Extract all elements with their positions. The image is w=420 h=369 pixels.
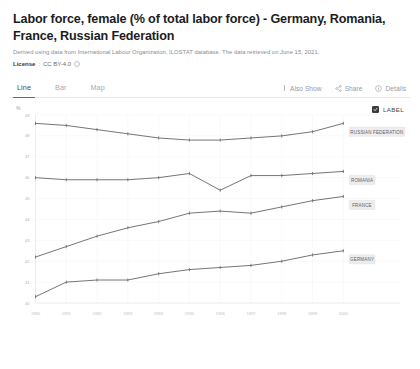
x-axis-tick: 1998 (277, 311, 287, 316)
x-axis-tick: 1999 (308, 311, 318, 316)
details-label: Details (385, 85, 406, 92)
y-axis-tick: 42 (25, 259, 30, 264)
tab-line[interactable]: Line (13, 83, 35, 97)
label-checkbox[interactable] (372, 106, 379, 113)
share-icon (335, 85, 342, 92)
y-axis-tick: 46 (25, 175, 30, 180)
chart-area: % LABEL 49484746454443424140199019911992… (10, 105, 410, 337)
series-label[interactable]: RUSSIAN FEDERATION (349, 127, 404, 136)
svg-text:ROMANIA: ROMANIA (351, 177, 374, 182)
x-axis-tick: 1993 (123, 311, 133, 316)
also-show-label: Also Show (290, 85, 322, 92)
y-axis-tick: 45 (25, 196, 30, 201)
x-axis-tick: 1996 (216, 311, 226, 316)
y-axis-tick: 47 (25, 154, 30, 159)
page-subtitle: Derived using data from International La… (10, 49, 410, 57)
y-axis-tick: 48 (25, 133, 30, 138)
bars-icon (282, 85, 287, 91)
share-button[interactable]: Share (335, 85, 363, 92)
tab-list: Line Bar Map (13, 83, 109, 97)
view-tabbar: Line Bar Map Also Show (10, 76, 410, 98)
chart-svg[interactable]: 4948474645444342414019901991199219931994… (10, 105, 410, 337)
license-row: License : CC BY-4.0 (10, 61, 410, 67)
license-separator: : (38, 61, 40, 67)
series-label[interactable]: ROMANIA (349, 175, 375, 184)
share-label: Share (345, 85, 363, 92)
x-axis-tick: 2000 (339, 311, 349, 316)
check-icon (373, 107, 378, 112)
y-axis-tick: 44 (25, 217, 30, 222)
chart-page: Labor force, female (% of total labor fo… (0, 0, 420, 369)
x-axis-tick: 1990 (31, 311, 41, 316)
series-label[interactable]: FRANCE (349, 200, 374, 209)
page-title: Labor force, female (% of total labor fo… (10, 10, 410, 44)
tab-bar[interactable]: Bar (51, 83, 71, 97)
label-toggle[interactable]: LABEL (372, 106, 404, 113)
details-button[interactable]: Details (375, 85, 406, 92)
chart-toolbar: Also Show Share (282, 85, 406, 97)
line-chart-plot: 4948474645444342414019901991199219931994… (10, 105, 410, 337)
x-axis-tick: 1992 (92, 311, 102, 316)
info-circle-icon[interactable] (74, 61, 80, 67)
x-axis-tick: 1997 (246, 311, 256, 316)
svg-text:FRANCE: FRANCE (352, 203, 372, 208)
info-circle-icon (375, 85, 382, 92)
x-axis-tick: 1995 (185, 311, 195, 316)
svg-text:RUSSIAN FEDERATION: RUSSIAN FEDERATION (350, 129, 403, 134)
y-axis-tick: 41 (25, 280, 30, 285)
also-show-button[interactable]: Also Show (282, 85, 322, 92)
svg-text:GERMANY: GERMANY (350, 257, 374, 262)
series-label[interactable]: GERMANY (349, 255, 375, 264)
x-axis-tick: 1994 (154, 311, 164, 316)
y-axis-tick: 40 (25, 300, 30, 305)
y-axis-tick: 49 (25, 112, 30, 117)
tab-map[interactable]: Map (87, 83, 109, 97)
label-toggle-text: LABEL (383, 106, 404, 113)
license-value[interactable]: CC BY-4.0 (43, 61, 71, 67)
y-axis-tick: 43 (25, 238, 30, 243)
license-label: License (13, 61, 35, 67)
x-axis-tick: 1991 (62, 311, 72, 316)
